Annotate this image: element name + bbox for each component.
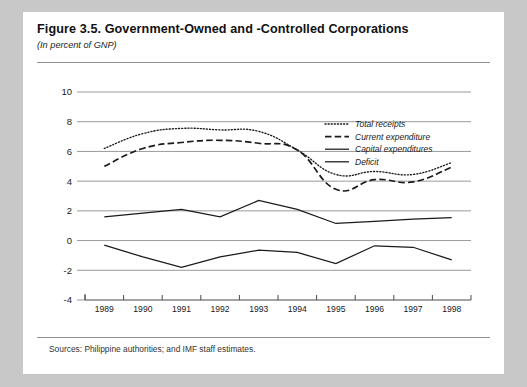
y-axis-label: -2	[64, 265, 72, 276]
series-line	[104, 245, 451, 267]
x-axis-tick-labels: 1989199019911992199319941995199619971998	[95, 304, 462, 314]
x-axis-label: 1991	[172, 304, 191, 314]
y-axis-label: 8	[67, 116, 72, 127]
legend-label: Deficit	[355, 157, 379, 167]
legend-label: Capital expenditures	[355, 144, 433, 154]
y-axis-label: 10	[61, 86, 72, 97]
gridlines-group	[77, 92, 471, 300]
x-axis-ticks	[85, 295, 471, 300]
line-chart-svg: 1086420-2-4 1989199019911992199319941995…	[23, 12, 504, 374]
x-axis-label: 1996	[365, 304, 384, 314]
x-axis-label: 1992	[211, 304, 230, 314]
y-axis-label: -4	[64, 294, 72, 305]
x-axis-label: 1997	[404, 304, 423, 314]
x-axis-label: 1989	[95, 304, 114, 314]
x-axis-label: 1994	[288, 304, 307, 314]
x-axis-label: 1993	[249, 304, 268, 314]
source-note: Sources: Philippine authorities; and IMF…	[49, 343, 256, 355]
y-axis-label: 0	[67, 235, 72, 246]
y-axis-tick-labels: 1086420-2-4	[61, 86, 72, 305]
y-axis-label: 2	[67, 205, 72, 216]
figure-card: Figure 3.5. Government-Owned and -Contro…	[23, 12, 504, 374]
x-axis-label: 1995	[326, 304, 345, 314]
chart-plot-area: 1086420-2-4 1989199019911992199319941995…	[23, 12, 504, 374]
source-divider	[37, 337, 490, 338]
x-axis-label: 1990	[133, 304, 152, 314]
series-line	[104, 200, 451, 223]
chart-legend: Total receiptsCurrent expenditureCapital…	[325, 119, 433, 167]
y-axis-label: 6	[67, 146, 72, 157]
legend-label: Current expenditure	[355, 132, 430, 142]
legend-label: Total receipts	[355, 119, 406, 129]
y-axis-label: 4	[67, 176, 72, 187]
x-axis-label: 1998	[442, 304, 461, 314]
